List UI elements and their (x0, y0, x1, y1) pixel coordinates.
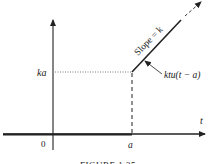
ka-label: ka (37, 67, 46, 78)
a-label: a (128, 140, 133, 150)
slope-label: Slope = k (132, 24, 165, 57)
ramp-function-diagram: ka 0 a t ktu(t − a) Slope = k FIGURE 1.3… (0, 0, 213, 164)
function-label: ktu(t − a) (164, 70, 200, 81)
function-pointer-arrow (145, 61, 162, 74)
origin-label: 0 (41, 139, 46, 149)
figure-caption: FIGURE 1.35 (80, 160, 136, 164)
t-axis-label: t (200, 115, 203, 126)
ramp-continuation-arrow (185, 2, 201, 16)
